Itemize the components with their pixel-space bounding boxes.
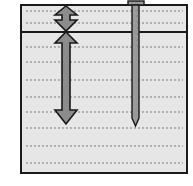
cross-section-diagram xyxy=(0,0,193,186)
layer-box xyxy=(21,5,187,173)
